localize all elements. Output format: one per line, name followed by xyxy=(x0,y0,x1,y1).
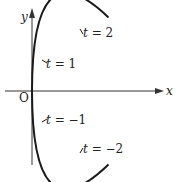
parametric-curve-diagram: x y O t = 2 t = 1 t = −1 t = −2 xyxy=(0,0,177,182)
x-axis-label: x xyxy=(166,84,173,98)
y-axis-label: y xyxy=(20,10,28,24)
label-t-neg2: t = −2 xyxy=(83,142,123,156)
origin-label: O xyxy=(19,91,29,105)
label-t-2: t = 2 xyxy=(83,26,113,40)
x-axis: x xyxy=(5,84,173,98)
label-t-neg1: t = −1 xyxy=(46,113,86,127)
label-t-1: t = 1 xyxy=(46,57,76,71)
y-axis-arrow-icon xyxy=(29,8,35,18)
x-axis-arrow-icon xyxy=(155,88,164,94)
